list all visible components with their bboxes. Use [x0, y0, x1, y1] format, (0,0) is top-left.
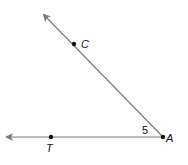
angle-label-5: 5: [142, 124, 148, 136]
point-t: [49, 135, 53, 139]
label-a: A: [165, 132, 173, 144]
ray-ac: [44, 15, 163, 137]
label-t: T: [46, 142, 54, 154]
point-c: [72, 42, 76, 46]
label-c: C: [81, 38, 89, 50]
angle-diagram: C T A 5: [0, 0, 188, 165]
point-a: [161, 135, 165, 139]
